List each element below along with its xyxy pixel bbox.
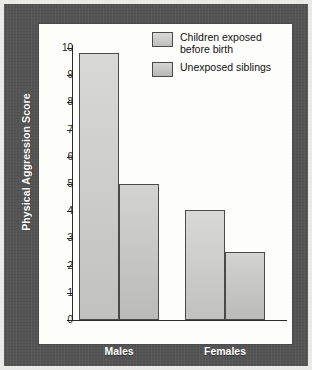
bar-males-series-1 bbox=[79, 53, 119, 320]
y-axis-tick-label: 4 bbox=[49, 206, 73, 216]
y-axis-tick-label: 10 bbox=[49, 43, 73, 53]
legend-swatch-icon-exposed bbox=[152, 32, 173, 47]
y-axis-tick-label: 6 bbox=[49, 152, 73, 162]
bar-males-series-2 bbox=[119, 184, 159, 320]
bar-females-series-2 bbox=[225, 252, 265, 320]
y-axis-title: Physical Aggression Score bbox=[20, 77, 32, 247]
y-axis-tick-label: 5 bbox=[49, 179, 73, 189]
y-axis-tick-label: 8 bbox=[49, 97, 73, 107]
y-axis-tick-label: 7 bbox=[49, 125, 73, 135]
legend-label-exposed-line1: Children exposed bbox=[180, 31, 262, 43]
y-axis-tick-label: 9 bbox=[49, 70, 73, 80]
y-axis-tick-label: 2 bbox=[49, 261, 73, 271]
y-axis-tick-label: 3 bbox=[49, 233, 73, 243]
plot-area: 109876543210 Children exposed before bir… bbox=[39, 24, 292, 344]
legend-item-unexposed: Unexposed siblings bbox=[152, 62, 271, 77]
legend-label-exposed: Children exposed before birth bbox=[180, 32, 262, 55]
chart-frame: Physical Aggression Score Males Females … bbox=[4, 4, 308, 366]
legend-label-unexposed: Unexposed siblings bbox=[180, 62, 271, 74]
y-axis-tick-label: 1 bbox=[49, 288, 73, 298]
x-axis-line bbox=[72, 320, 287, 321]
bar-females-series-1 bbox=[185, 210, 225, 320]
legend-label-exposed-line2: before birth bbox=[180, 43, 233, 55]
chart-figure: Physical Aggression Score Males Females … bbox=[0, 0, 312, 370]
x-axis-category-label-males: Males bbox=[74, 345, 164, 357]
x-axis-category-label-females: Females bbox=[180, 345, 270, 357]
y-axis-tick-label: 0 bbox=[49, 315, 73, 325]
chart-legend: Children exposed before birth Unexposed … bbox=[152, 32, 271, 84]
legend-swatch-icon-unexposed bbox=[152, 62, 173, 77]
legend-item-exposed: Children exposed before birth bbox=[152, 32, 271, 55]
